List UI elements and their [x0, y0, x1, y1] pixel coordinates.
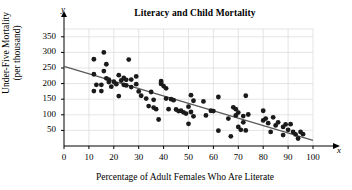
x-tick-label: 20	[102, 152, 126, 162]
data-point	[146, 104, 151, 109]
axis-lines	[61, 11, 340, 149]
x-tick-label: 50	[177, 152, 201, 162]
data-point	[114, 82, 119, 87]
data-point	[136, 89, 141, 94]
data-point	[164, 96, 169, 101]
data-point	[124, 77, 129, 82]
data-point	[149, 90, 154, 95]
y-tick-label: 250	[28, 62, 56, 72]
data-point	[266, 121, 271, 126]
x-tick-label: 40	[152, 152, 176, 162]
x-tick-label: 30	[127, 152, 151, 162]
data-point	[261, 108, 266, 113]
data-point	[191, 98, 196, 103]
data-point	[99, 89, 104, 94]
data-point	[91, 72, 96, 77]
y-tick-label: 300	[28, 46, 56, 56]
data-point	[201, 99, 206, 104]
data-point	[189, 93, 194, 98]
data-point	[241, 114, 246, 119]
data-point	[126, 57, 131, 62]
data-point	[91, 57, 96, 62]
data-point	[268, 130, 273, 135]
y-tick-label: 200	[28, 78, 56, 88]
data-point	[288, 122, 293, 127]
data-point	[144, 96, 149, 101]
data-point	[301, 132, 306, 137]
data-point	[238, 127, 243, 132]
data-point	[116, 94, 121, 99]
x-tick-label: 70	[226, 152, 250, 162]
data-point	[283, 122, 288, 127]
data-point	[271, 115, 276, 120]
data-point	[263, 116, 268, 121]
data-point	[293, 132, 298, 137]
data-point	[204, 113, 209, 118]
origin-label: 0	[52, 152, 76, 162]
data-point	[129, 85, 134, 90]
data-point	[91, 89, 96, 94]
data-point	[101, 69, 106, 74]
data-point	[106, 80, 111, 85]
data-point	[164, 86, 169, 91]
x-tick-label: 10	[77, 152, 101, 162]
data-point	[129, 77, 134, 82]
data-point	[189, 110, 194, 115]
data-point	[286, 127, 291, 132]
data-point	[296, 136, 301, 141]
y-tick-label: 50	[28, 124, 56, 134]
data-point	[228, 134, 233, 139]
data-point	[281, 133, 286, 138]
data-point	[139, 93, 144, 98]
data-point	[134, 82, 139, 87]
scatter-plot-figure: Literacy and Child Mortality Under-Five …	[0, 0, 352, 190]
data-point	[243, 93, 248, 98]
data-point	[276, 120, 281, 125]
data-point	[186, 121, 191, 126]
data-point	[186, 104, 191, 109]
data-point	[116, 73, 121, 78]
grid-lines	[64, 29, 313, 146]
data-point	[241, 120, 246, 125]
data-point	[134, 74, 139, 79]
data-point	[151, 97, 156, 102]
data-point	[184, 111, 189, 116]
data-point	[216, 128, 221, 133]
x-tick-label: 90	[276, 152, 300, 162]
data-point	[99, 82, 104, 87]
data-point	[191, 114, 196, 119]
data-point	[216, 95, 221, 100]
data-point	[124, 83, 129, 88]
data-point	[171, 98, 176, 103]
x-tick-label: 100	[301, 152, 325, 162]
data-point	[226, 116, 231, 121]
x-tick-label: 60	[201, 152, 225, 162]
data-point	[166, 107, 171, 112]
data-point	[101, 50, 106, 55]
y-axis-arrowhead	[61, 11, 67, 17]
data-point	[109, 84, 114, 89]
data-point	[236, 110, 241, 115]
data-point	[156, 117, 161, 122]
y-tick-label: 150	[28, 93, 56, 103]
data-point	[154, 107, 159, 112]
y-tick-label: 100	[28, 109, 56, 119]
data-points	[91, 50, 305, 141]
data-point	[246, 112, 251, 117]
tick-marks	[61, 37, 313, 149]
x-tick-label: 80	[251, 152, 275, 162]
x-axis-arrowhead	[333, 143, 340, 149]
data-point	[94, 82, 99, 87]
data-point	[243, 128, 248, 133]
data-point	[211, 109, 216, 114]
y-tick-label: 350	[28, 31, 56, 41]
data-point	[104, 62, 109, 67]
